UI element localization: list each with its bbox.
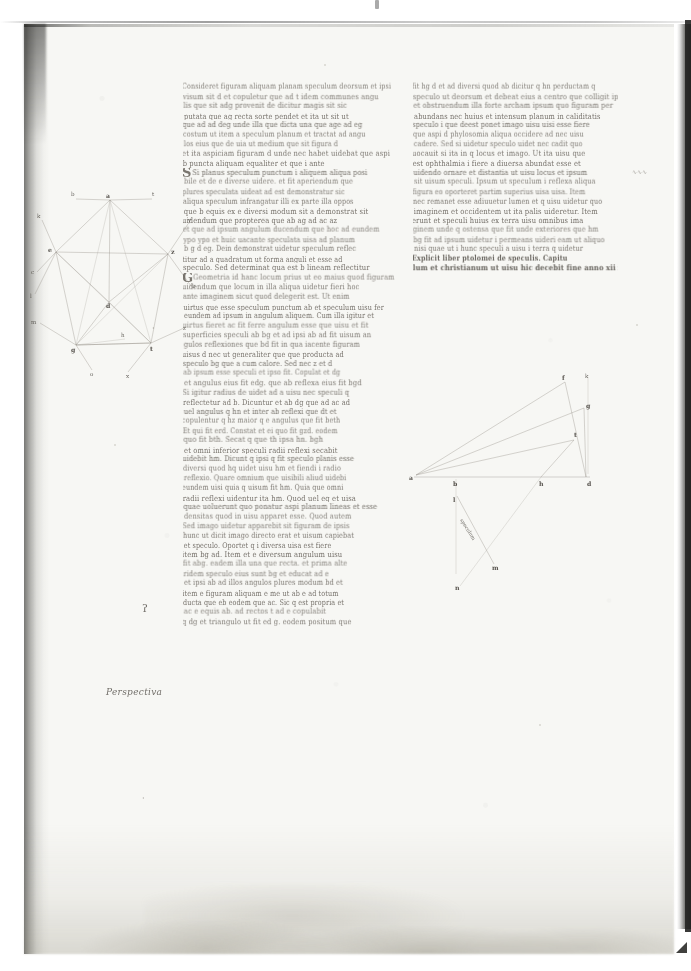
manuscript-line-text: radii reflexi uidentur ita hm. Quod uel … (183, 493, 395, 502)
manuscript-line-text: bg fit ad ipsum uidetur i permeans uider… (413, 235, 617, 244)
text-column-left: Consideret figuram aliquam planam specul… (183, 82, 395, 626)
manuscript-line-text: et ipsi ab ad illos angulos plures modum… (184, 578, 395, 588)
manuscript-line-text: Geometria id hanc locum prius ut eo maiu… (184, 273, 395, 283)
manuscript-line-left: b puncta aliquam equaliter et que i ante (183, 158, 395, 168)
ray-g-m (40, 323, 76, 345)
chord-e-z (56, 252, 168, 254)
folio-page: a e z d g t h b t k y c b l m z o x (24, 24, 674, 954)
manuscript-line-left: que b equis ex e diversi modum sit a dem… (183, 206, 395, 216)
manuscript-line-text: fit abg. eadem illa una que recta. et pr… (183, 559, 395, 569)
diagram-label-o: o (90, 371, 94, 377)
diagram-label-c: c (31, 269, 34, 275)
manuscript-line-text: et omni inferior speculi radii reflexi s… (184, 445, 395, 454)
manuscript-line-left: et speculo. Oportet q i diversa uisa est… (183, 540, 395, 550)
manuscript-line-left: uirtus fieret ac fit ferre angulum esse … (183, 321, 395, 331)
chord-a-t (110, 200, 151, 343)
speck (636, 324, 638, 326)
manuscript-line-left: ypo ypo et huic uacante speculata uisa a… (183, 235, 395, 245)
manuscript-line-left: reflectetur ad b. Dicuntur et ab dg que … (183, 397, 395, 407)
manuscript-line-left: item bg ad. Item et e diversum angulum u… (183, 550, 395, 560)
margin-tick-upper: ‧ (152, 324, 155, 333)
left-column-lines: Consideret figuram aliquam planam specul… (183, 82, 395, 626)
ray-e-c (37, 252, 56, 272)
manuscript-line-text: plures speculata uideat ad est demonstra… (183, 187, 391, 196)
manuscript-line-text: b g d eg. Dein demonstrat uidetur specul… (184, 244, 392, 254)
manuscript-line-text: titur ad a quadratum ut forma anguli et … (183, 254, 388, 263)
manuscript-line-right: erunt et speculi huius ex terra uisu omn… (413, 216, 618, 226)
colophon-line: Explicit liber ptolomei de speculis. Cap… (413, 254, 618, 264)
ray-t-x (128, 343, 151, 372)
seg-g-d (584, 408, 586, 477)
paragraph-initial: S (183, 168, 191, 178)
margin-mark-symbol: ʔ (142, 602, 148, 615)
manuscript-line-text: que b equis ex e diversi modum sit a dem… (184, 207, 395, 216)
ray-label-g: g (586, 402, 591, 410)
manuscript-line-right: ginem unde q ostensa que fit unde exteri… (413, 225, 618, 235)
binding-gutter-top-shadow (24, 24, 46, 144)
ray-label-m: m (492, 564, 499, 571)
manuscript-line-text: uel angulus q hn et inter ab reflexi que… (184, 407, 395, 417)
ray-label-k: k (585, 373, 589, 379)
manuscript-line-right: nec remanet esse adiuuetur lumen et q ui… (413, 197, 618, 207)
seg-f-d (565, 382, 586, 477)
manuscript-line-left: et ipsi ab ad illos angulos plures modum… (183, 578, 395, 588)
manuscript-line-left: los eius que de uia ut medium que sit fi… (183, 139, 395, 149)
diagram-label-g: g (71, 346, 76, 354)
text-column-right: fit hg d et ad diversi quod ab dicitur q… (413, 82, 618, 273)
diagram-label-x: x (126, 373, 130, 379)
ray-label-f: f (562, 374, 565, 381)
manuscript-line-text: uirtus que esse speculum punctum ab et s… (183, 302, 391, 311)
manuscript-line-left: speculo bg que a cum calore. Sed nec z e… (183, 359, 395, 369)
diagram-label-m: m (31, 319, 37, 325)
manuscript-line-left: densitas quod in uisu apparet esse. Quod… (183, 512, 395, 522)
manuscript-line-left: et omni inferior speculi radii reflexi s… (183, 445, 395, 455)
manuscript-line-left: plures speculata uideat ad est demonstra… (183, 187, 395, 197)
manuscript-line-text: los eius que de uia ut medium que sit fi… (184, 140, 390, 149)
manuscript-line-text: Consideret figuram aliquam planam specul… (183, 82, 388, 92)
parchment-stain (144, 884, 474, 954)
manuscript-line-left: ridem speculo eius sunt bg et educat ad … (183, 569, 395, 579)
manuscript-line-text: item bg ad. Item et e diversum angulum u… (183, 550, 395, 560)
manuscript-line-right: imaginem et occidentem ut ita palis uide… (413, 206, 618, 216)
manuscript-line-text: et speculo. Oportet q i diversa uisa est… (184, 541, 390, 550)
ray-label-h: h (539, 480, 544, 487)
manuscript-line-text: eundem ad ipsum in angulum aliquem. Cum … (184, 311, 390, 321)
manuscript-line-left: ante imaginem sicut quod delegerit est. … (183, 292, 395, 302)
ray-label-t: t (574, 431, 577, 438)
manuscript-line-text: ridem speculo eius sunt bg et educat ad … (183, 569, 395, 578)
manuscript-line-left: superficies speculi ab bg et ad ipsi ab … (183, 330, 395, 340)
manuscript-line-left: uel angulus q hn et inter ab reflexi que… (183, 407, 395, 417)
manuscript-line-text: uidendo ornare et distantia ut uisu locu… (413, 168, 618, 178)
manuscript-line-text: speculo bg que a cum calore. Sed nec z e… (183, 359, 391, 369)
ray-label-l: l (453, 496, 456, 503)
chord-e-t (56, 252, 151, 343)
scan-top-edge-line (0, 21, 691, 23)
diagram-caption-speculum: speculum (458, 517, 477, 542)
manuscript-line-text: speculo ut deorsum et debeat eius a cent… (413, 92, 618, 101)
manuscript-line-text: q dg et triangulo ut fit ed g. eodem pos… (183, 617, 395, 626)
manuscript-line-text: Et qui fit erd. Constat et ei quo fit gz… (183, 426, 388, 435)
manuscript-line-left: et angulus eius fit edg. que ab reflexa … (183, 378, 395, 388)
manuscript-line-text: reflexio. Quare omnium que uisibili aliu… (184, 474, 392, 483)
manuscript-line-text: uidendum que locum in illa aliqua uidetu… (183, 283, 395, 292)
diagram-label-b1: b (71, 191, 75, 197)
ray-e-l (35, 252, 56, 294)
manuscript-line-left: Geometria id hanc locum prius ut eo maiu… (183, 273, 395, 283)
chord-d-z (109, 254, 168, 302)
diagram-label-z: z (171, 248, 175, 255)
manuscript-line-left: Si igitur radius de uidet ad a uisu nec … (183, 388, 395, 398)
manuscript-line-text: quae uoluerunt quo ponatur aspi planum l… (183, 502, 395, 512)
manuscript-line-text: uidendum que propterea que ab ag ad ac a… (183, 216, 395, 226)
manuscript-line-text: speculo i que deest ponet imago uisu uis… (413, 120, 616, 130)
margin-tick-lower: ‧ (142, 794, 145, 803)
manuscript-line-text: cadere. Sed si uidetur speculo uidet nec… (414, 140, 613, 149)
manuscript-line-text: bile et de e diverse uidere. et fit aper… (184, 177, 395, 187)
manuscript-line-text: lis que sit adg provenit de dicitur magi… (183, 101, 395, 111)
manuscript-line-left: quo fit bth. Secat q que th ipsa hn. bgh (183, 435, 395, 445)
manuscript-line-text: eundem uisi quia q uisum fit hm. Quia qu… (183, 483, 388, 493)
manuscript-line-left: et ita aspiciam figuram d unde nec habet… (183, 149, 395, 159)
manuscript-line-text: figura eo oporteret partim superius uisa… (413, 187, 614, 196)
manuscript-line-text: copulentur q hz maior q e angulus que fi… (183, 416, 390, 426)
manuscript-line-text: speculo. Sed determinat qua est b lineam… (183, 263, 395, 273)
manuscript-line-text: nec remanet esse adiuuetur lumen et q ui… (413, 197, 612, 207)
